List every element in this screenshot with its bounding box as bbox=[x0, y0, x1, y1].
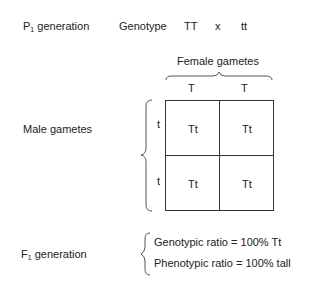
punnett-cell-2-2: Tt bbox=[220, 156, 274, 211]
male-gamete-1: t bbox=[157, 119, 160, 130]
punnett-cell-1-1: Tt bbox=[166, 101, 220, 156]
female-gamete-2: T bbox=[241, 83, 248, 94]
punnett-cell-1-2: Tt bbox=[220, 101, 274, 156]
punnett-cell-2-1: Tt bbox=[166, 156, 220, 211]
male-gametes-title: Male gametes bbox=[23, 124, 92, 135]
f1-generation-label: F1 generation bbox=[21, 249, 87, 261]
genotypic-ratio: Genotypic ratio = 100% Tt bbox=[154, 237, 281, 248]
female-gamete-1: T bbox=[188, 83, 195, 94]
male-gamete-2: t bbox=[157, 176, 160, 187]
phenotypic-ratio: Phenotypic ratio = 100% tall bbox=[154, 258, 291, 269]
